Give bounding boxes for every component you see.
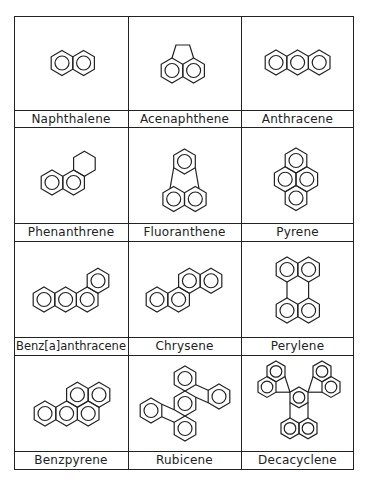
caption-acenaphthene: Acenaphthene (128, 111, 241, 128)
naphthalene-structure-icon (14, 16, 128, 110)
caption-benzpyrene: Benzpyrene (14, 452, 128, 469)
caption-perylene: Perylene (241, 338, 354, 355)
caption-rubicene: Rubicene (128, 452, 241, 469)
fluoranthene-structure-icon (128, 127, 241, 223)
perylene-structure-icon (241, 241, 354, 337)
caption-decacyclene: Decacyclene (241, 452, 354, 469)
decacyclene-structure-icon (241, 355, 354, 451)
pyrene-structure-icon (241, 127, 354, 223)
benzpyrene-structure-icon (14, 355, 128, 451)
benzanthracene-structure-icon (14, 241, 128, 337)
caption-fluoranthene: Fluoranthene (128, 224, 241, 241)
acenaphthene-structure-icon (128, 16, 241, 110)
caption-phenanthrene: Phenanthrene (14, 224, 128, 241)
caption-chrysene: Chrysene (128, 338, 241, 355)
caption-pyrene: Pyrene (241, 224, 354, 241)
caption-naphthalene: Naphthalene (14, 111, 128, 128)
caption-anthracene: Anthracene (241, 111, 354, 128)
anthracene-structure-icon (241, 16, 354, 110)
chrysene-structure-icon (128, 241, 241, 337)
caption-benzanthracene: Benz[a]anthracene (14, 338, 128, 355)
phenanthrene-structure-icon (14, 127, 128, 223)
rubicene-structure-icon (128, 355, 241, 451)
